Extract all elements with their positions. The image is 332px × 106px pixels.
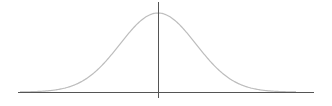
normal-distribution-chart [0,0,332,106]
plot-area [0,0,332,106]
